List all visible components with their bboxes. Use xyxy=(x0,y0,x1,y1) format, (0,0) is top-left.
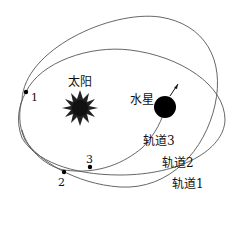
point-2-label: 2 xyxy=(58,177,65,188)
sun-icon xyxy=(62,90,98,126)
sun-label: 太阳 xyxy=(68,76,92,88)
orbit-3-label: 轨道3 xyxy=(143,135,175,147)
point-1-label: 1 xyxy=(31,92,38,103)
point-2-marker xyxy=(62,170,66,174)
orbit-2-label: 轨道2 xyxy=(162,157,194,169)
mercury-icon xyxy=(154,96,176,118)
orbit-2-path xyxy=(19,49,225,175)
orbit-1-label: 轨道1 xyxy=(172,178,204,190)
mercury-label: 水星 xyxy=(130,94,154,106)
point-3-label: 3 xyxy=(86,154,93,165)
point-1-marker xyxy=(24,90,28,94)
